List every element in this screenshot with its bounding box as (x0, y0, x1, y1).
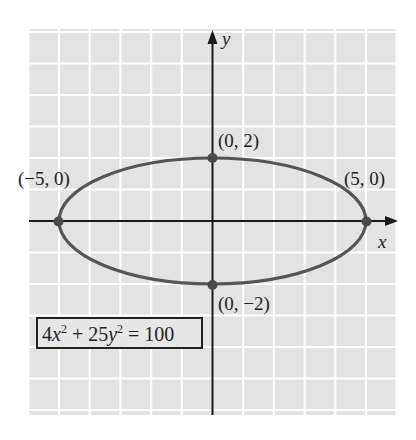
eq-var1: x (52, 323, 61, 345)
point-right-label: (5, 0) (344, 169, 385, 188)
equation-box: 4x2 + 25y2 = 100 (36, 317, 203, 349)
point-top (208, 153, 218, 163)
eq-var2: y (108, 323, 117, 345)
ellipse-graph (0, 0, 416, 440)
point-left-label: (−5, 0) (18, 169, 70, 188)
point-top-label: (0, 2) (218, 131, 259, 150)
eq-coef1: 4 (42, 323, 52, 345)
point-bottom-label: (0, −2) (218, 294, 270, 313)
x-axis-label: x (378, 232, 386, 251)
point-left (54, 217, 64, 227)
eq-plus: + 25 (67, 323, 108, 345)
eq-rhs: = 100 (123, 323, 174, 345)
point-right (362, 217, 372, 227)
y-axis-label: y (222, 29, 230, 48)
point-bottom (208, 280, 218, 290)
